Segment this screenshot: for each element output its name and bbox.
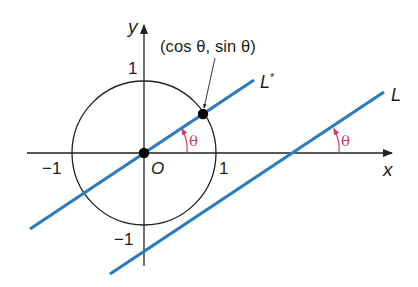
line-l-label: L (391, 86, 401, 104)
tick-label-y-1: 1 (128, 60, 137, 77)
line-l-star-label: L* (260, 72, 274, 91)
theta-label-origin: θ (189, 134, 198, 149)
unit-circle-diagram: y x O 1 −1 1 −1 (cos θ, sin θ) L* L θ θ (0, 0, 418, 287)
point-leader-arrow (204, 58, 215, 108)
theta-label-l: θ (341, 134, 350, 149)
angle-arc-l (334, 129, 339, 153)
tick-label-y-neg1: −1 (114, 231, 133, 248)
angle-arc-origin (182, 129, 187, 153)
point-cos-sin (198, 109, 208, 119)
line-l-star-superscript: * (270, 71, 274, 83)
point-coordinate-label: (cos θ, sin θ) (160, 38, 256, 55)
y-axis-label: y (128, 17, 138, 36)
line-l (110, 92, 384, 274)
origin-point (139, 148, 149, 158)
tick-label-x-neg1: −1 (42, 160, 61, 177)
x-axis-label: x (383, 160, 393, 179)
line-l-star-letter: L (260, 72, 270, 92)
origin-label: O (151, 160, 164, 177)
tick-label-x-1: 1 (219, 160, 228, 177)
